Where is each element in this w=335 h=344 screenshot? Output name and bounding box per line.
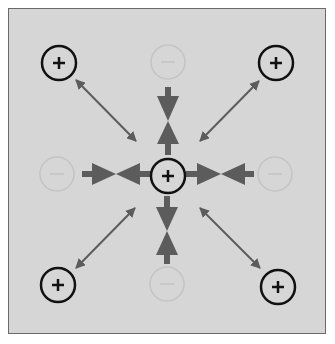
double-arrow-top-left xyxy=(76,80,136,141)
negative-charge-right xyxy=(258,157,292,191)
double-arrow-bottom-left xyxy=(76,208,135,268)
positive-charge-bottom-left xyxy=(41,268,75,302)
double-arrow-top-right xyxy=(200,81,259,141)
charge-diagram xyxy=(0,0,335,344)
converging-arrows-bottom xyxy=(156,196,178,264)
converging-arrows-top xyxy=(157,87,179,155)
positive-charge-top-right xyxy=(259,46,293,80)
positive-charge-center xyxy=(151,159,185,193)
double-arrow-bottom-right xyxy=(200,208,260,268)
converging-arrows-left xyxy=(82,163,151,185)
negative-charge-bottom xyxy=(150,267,184,301)
negative-charge-left xyxy=(40,157,74,191)
negative-charge-top xyxy=(151,45,185,79)
positive-charge-top-left xyxy=(42,46,76,80)
converging-arrows-right xyxy=(186,163,254,185)
positive-charge-bottom-right xyxy=(261,270,295,304)
